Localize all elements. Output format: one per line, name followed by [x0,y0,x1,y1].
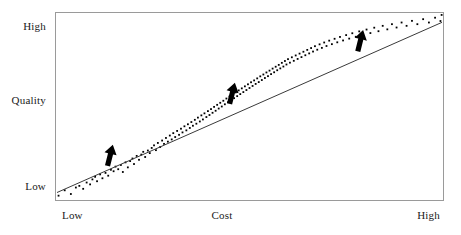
scatter-point [396,27,398,29]
plot-area [0,0,461,235]
scatter-point [171,139,173,141]
scatter-point [273,71,275,73]
scatter-point [167,141,169,143]
scatter-point [96,180,98,182]
scatter-point [264,77,266,79]
scatter-point [105,172,107,174]
scatter-point [204,112,206,114]
scatter-point [303,51,305,53]
scatter-point [358,30,360,32]
y-axis-label-high: High [0,20,46,32]
scatter-point [58,195,60,197]
scatter-point [202,119,204,121]
scatter-point [310,47,312,49]
scatter-point [279,67,281,69]
scatter-point [334,38,336,40]
scatter-point [369,32,371,34]
scatter-point [289,62,291,64]
scatter-point [366,29,368,31]
scatter-point [301,56,303,58]
x-axis-title-cost: Cost [212,209,233,221]
scatter-point [239,93,241,95]
scatter-point [275,66,277,68]
scatter-point [276,69,278,71]
scatter-point [78,185,80,187]
scatter-point [348,38,350,40]
scatter-point [342,40,344,42]
scatter-point [287,58,289,60]
scatter-point [199,121,201,123]
scatter-point [242,91,244,93]
scatter-point [244,85,246,87]
scatter-point [210,108,212,110]
scatter-points-group [58,14,443,197]
scatter-point [272,68,274,70]
scatter-point [323,42,325,44]
scatter-point [339,36,341,38]
scatter-point [391,23,393,25]
scatter-point [133,163,135,165]
scatter-point [236,95,238,97]
scatter-point [82,188,84,190]
scatter-point [266,72,268,74]
scatter-point [187,123,189,125]
scatter-point [219,102,221,104]
y-axis-title-quality: Quality [0,94,46,106]
annotation-arrows-group [102,28,370,167]
scatter-point [261,79,263,81]
x-axis-label-high: High [417,209,440,221]
scatter-point [176,130,178,132]
scatter-point [282,66,284,68]
scatter-point [113,170,115,172]
scatter-point [428,22,430,24]
scatter-point [331,43,333,45]
scatter-point [252,85,254,87]
arrow-up-3-icon [352,28,369,52]
scatter-point [312,51,314,53]
scatter-point [284,60,286,62]
scatter-point [316,49,318,51]
scatter-point [142,151,144,153]
scatter-point [102,177,104,179]
scatter-point [107,175,109,177]
scatter-point [321,47,323,49]
scatter-point [172,132,174,134]
scatter-point [238,90,240,92]
scatter-point [224,103,226,105]
scatter-point [165,137,167,139]
scatter-point [213,106,215,108]
scatter-point [336,41,338,43]
scatter-point [422,18,424,20]
scatter-point [89,183,91,185]
scatter-point [215,110,217,112]
arrow-up-2-icon [224,81,241,105]
scatter-point [351,32,353,34]
scatter-point [216,104,218,106]
scatter-point [205,116,207,118]
scatter-point [241,87,243,89]
scatter-point [194,119,196,121]
scatter-point [278,64,280,66]
scatter-point [373,27,375,29]
scatter-point [259,75,261,77]
scatter-point [258,81,260,83]
scatter-point [218,108,220,110]
scatter-point [293,60,295,62]
scatter-point [286,64,288,66]
scatter-point [207,110,209,112]
scatter-point [401,22,403,24]
scatter-point [195,123,197,125]
scatter-point [326,45,328,47]
scatter-point [192,125,194,127]
scatter-point [178,134,180,136]
scatter-point [226,98,228,100]
scatter-point [189,127,191,129]
scatter-point [161,140,163,142]
y-axis-label-low: Low [0,180,46,192]
scatter-point [386,28,388,30]
scatter-point [70,193,72,195]
scatter-point [328,40,330,42]
scatter-chart-figure: High Quality Low Low Cost High [0,0,461,235]
scatter-point [153,144,155,146]
scatter-point [299,53,301,55]
